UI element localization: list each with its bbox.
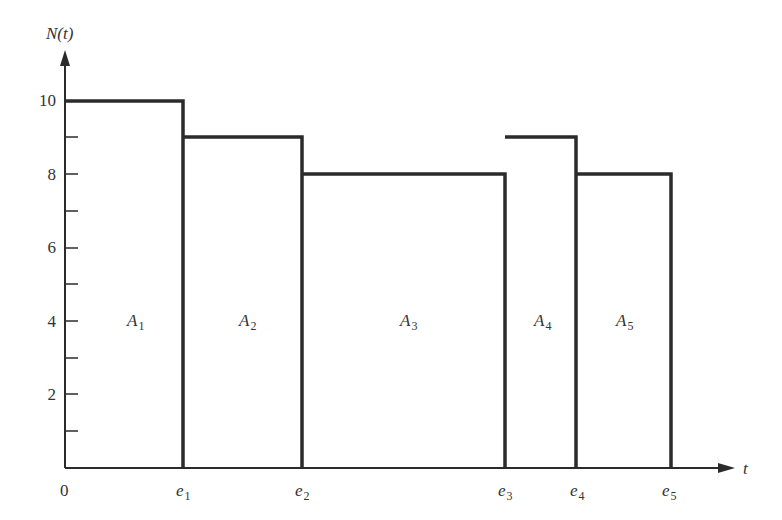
area-sub: 5 [627,319,633,333]
area-base: A [400,311,410,330]
origin-label: 0 [60,482,69,499]
area-label-a5: A5 [616,312,633,329]
x-axis-label: t [743,460,748,477]
x-tick-sub: 5 [671,489,677,503]
y-tick-label-4: 4 [26,313,56,330]
x-tick-base: e [662,481,670,500]
area-label-a3: A3 [400,312,417,329]
y-tick-label-10: 10 [26,92,56,109]
x-tick-label-e1: e1 [176,482,191,499]
x-tick-sub: 3 [507,489,513,503]
x-tick-label-e2: e2 [295,482,310,499]
area-base: A [239,311,249,330]
y-ticks [65,137,78,431]
area-label-a4: A4 [534,312,551,329]
area-sub: 1 [138,319,144,333]
x-tick-label-e3: e3 [498,482,513,499]
x-axis-arrow-icon [718,463,735,473]
y-axis-label-n: N [46,24,57,43]
y-tick-label-6: 6 [26,239,56,256]
area-sub: 2 [250,319,256,333]
x-tick-base: e [570,481,578,500]
area-label-a1: A1 [127,312,144,329]
x-tick-base: e [176,481,184,500]
y-axis-arrow-icon [60,50,70,66]
step-chart [0,0,782,520]
x-tick-label-e5: e5 [662,482,677,499]
x-tick-sub: 2 [304,489,310,503]
y-tick-label-8: 8 [26,166,56,183]
area-sub: 3 [411,319,417,333]
x-tick-base: e [295,481,303,500]
x-tick-sub: 4 [579,489,585,503]
area-label-a2: A2 [239,312,256,329]
y-axis-label-paren: (t) [57,24,73,43]
area-base: A [534,311,544,330]
y-axis-label: N(t) [46,25,73,42]
area-base: A [127,311,137,330]
x-tick-base: e [498,481,506,500]
x-tick-label-e4: e4 [570,482,585,499]
step-line [65,101,671,468]
y-tick-label-2: 2 [26,386,56,403]
x-tick-sub: 1 [185,489,191,503]
area-base: A [616,311,626,330]
area-sub: 4 [545,319,551,333]
